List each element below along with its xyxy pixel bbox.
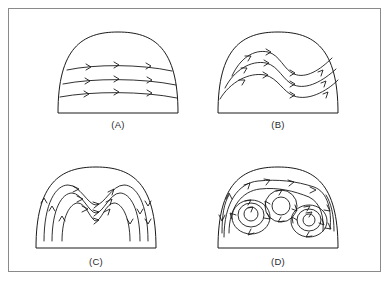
arrow-c-2 [49,206,55,211]
arrow-d-10 [264,213,270,219]
arrow-c-16 [145,219,151,224]
streamline-a-3 [60,93,177,98]
streamline-b-2 [225,62,336,88]
vortex-right-core [303,214,315,226]
streamline-b-1 [232,51,332,76]
panel-label-d: (D) [271,256,285,267]
arrow-a-5 [114,76,119,82]
arrow-d-18 [304,206,310,211]
arrow-a-8 [114,89,119,95]
panel-label-b: (B) [271,119,285,130]
arrow-a-9 [147,90,152,96]
dome-outline-c [36,167,156,248]
panel-d: (D) [196,141,391,282]
streamline-a-1 [67,66,172,71]
streamline-d-left-wall [222,195,229,233]
arrow-b-1 [245,56,251,61]
arrow-d-15 [292,205,297,211]
figure-root: (A) [0,0,391,282]
arrow-a-6 [147,77,152,83]
panel-b: (B) [196,0,391,141]
arrow-d-14 [276,190,282,195]
arrow-d-1 [244,183,250,189]
arrow-a-2 [114,62,119,68]
arrow-a-3 [146,63,151,69]
arrow-d-20 [306,232,312,237]
panel-a: (A) [0,0,195,141]
arrow-d-2 [264,179,270,185]
arrow-d-16 [278,217,284,222]
dome-outline-a [58,32,178,113]
arrow-d-13 [248,207,253,212]
arrow-c-1 [41,198,47,203]
arrow-c-3 [59,216,65,221]
arrow-b-8 [321,81,326,87]
arrow-c-4 [73,186,79,192]
vortex-left-core [244,207,258,221]
arrow-b-4 [318,70,323,76]
arrow-c-14 [137,209,143,214]
arrow-b-9 [239,80,245,85]
streamline-b-3 [220,74,338,99]
streamline-a-2 [63,80,176,85]
arrow-b-12 [323,92,328,98]
panel-label-a: (A) [111,119,125,130]
panel-grid: (A) [0,0,391,282]
arrow-d-17 [265,201,270,207]
panel-label-c: (C) [89,256,103,267]
vortex-center-core [272,197,290,215]
arrow-d-21 [292,217,297,223]
panel-c: (C) [0,141,195,282]
